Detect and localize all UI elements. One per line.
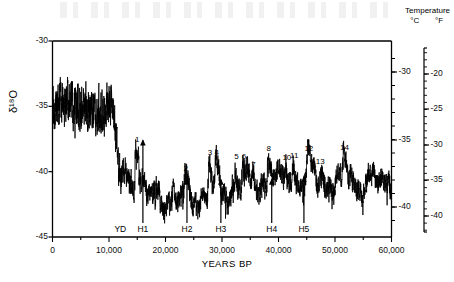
interstadial-label-11: 11 <box>288 151 300 160</box>
axis-ticks <box>49 41 430 242</box>
temperature-c-tick-label: -40 <box>399 201 411 211</box>
temperature-f-tick-label: -40 <box>431 210 443 220</box>
interstadial-label-8: 8 <box>263 144 275 153</box>
x-axis-tick-label: 60,000 <box>362 245 422 255</box>
y-axis-tick-label: -30 <box>26 35 48 45</box>
interstadial-label-14: 14 <box>338 143 350 152</box>
event-label-h2: H2 <box>176 224 198 234</box>
event-label-h4: H4 <box>261 224 283 234</box>
x-axis-tick-label: 20,000 <box>136 245 196 255</box>
interstadial-label-4: 4 <box>211 148 223 157</box>
x-axis-tick-label: 40,000 <box>249 245 309 255</box>
event-label-h5: H5 <box>293 224 315 234</box>
interstadial-label-7: 7 <box>248 160 260 169</box>
interstadial-label-9: 9 <box>274 167 286 176</box>
plot-frame <box>53 41 428 237</box>
temperature-f-tick-label: -35 <box>431 174 443 184</box>
x-axis-tick-label: 50,000 <box>305 245 365 255</box>
y-axis-tick-label: -45 <box>26 231 48 241</box>
interstadial-label-12: 12 <box>303 144 315 153</box>
event-label-yd: YD <box>109 224 131 234</box>
temperature-f-tick-label: -20 <box>431 68 443 78</box>
y-axis-tick-label: -35 <box>26 100 48 110</box>
temperature-f-tick-label: -30 <box>431 139 443 149</box>
temperature-c-tick-label: -35 <box>399 134 411 144</box>
y-axis-tick-label: -40 <box>26 166 48 176</box>
interstadial-label-1: 1 <box>131 135 143 144</box>
x-axis-tick-label: 0 <box>23 245 83 255</box>
temperature-c-tick-label: -30 <box>399 66 411 76</box>
temperature-f-tick-label: -25 <box>431 103 443 113</box>
chart-canvas <box>0 0 454 282</box>
interstadial-label-13: 13 <box>314 157 326 166</box>
x-axis-tick-label: 30,000 <box>192 245 252 255</box>
interstadial-label-2: 2 <box>180 164 192 173</box>
x-axis-tick-label: 10,000 <box>79 245 139 255</box>
event-label-h1: H1 <box>132 224 154 234</box>
event-label-h3: H3 <box>210 224 232 234</box>
